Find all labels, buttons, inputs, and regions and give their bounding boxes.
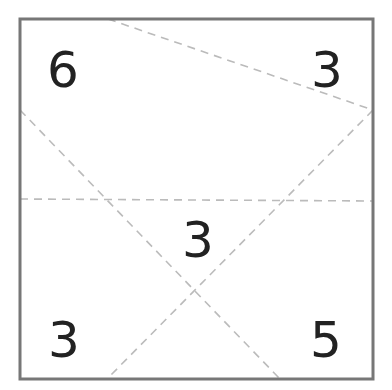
diagram-canvas: 6 3 3 3 5 bbox=[0, 0, 392, 390]
label-bottom-right: 5 bbox=[310, 315, 342, 365]
label-center: 3 bbox=[182, 215, 214, 265]
label-top-right: 3 bbox=[311, 45, 343, 95]
dashed-line-horizontal bbox=[20, 199, 373, 201]
label-top-left: 6 bbox=[47, 45, 79, 95]
label-bottom-left: 3 bbox=[48, 315, 80, 365]
